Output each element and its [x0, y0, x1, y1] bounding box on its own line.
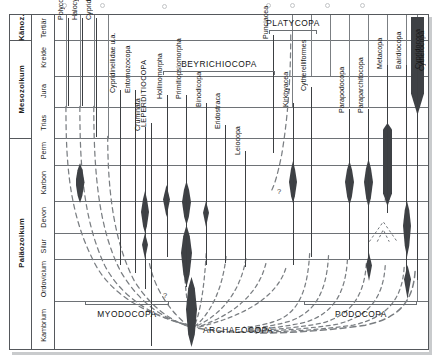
period-label: Jura: [39, 84, 48, 98]
taxon-stem-cypridinellidae: [120, 90, 121, 265]
scan-speckle: [162, 4, 167, 9]
period-cell-perm: Perm: [32, 138, 55, 165]
group-caption-myodocopa: MYODOCOPA: [83, 309, 171, 319]
taxon-label-cypridiniformes: Cypridiniformes: [85, 0, 93, 20]
group-caption-archaeocopa: ARCHAEOCOPA: [203, 325, 297, 335]
group-caption-podocopa: PODOCOPA: [305, 309, 417, 319]
taxon-label-kirkbyacea: Kirkbyacea: [282, 72, 290, 107]
period-cell-tertiaer: Tertiär: [32, 15, 55, 40]
taxon-label-polycopiformes: Polycopiformes: [57, 0, 65, 20]
plot-area: Polycopiformes Halocypriformes Cypridini…: [55, 15, 428, 349]
taxon-label-cypridinellidae: Cypridinellidae u.a.: [109, 33, 117, 93]
era-cell-mesozoikum: Mesozoikum: [10, 40, 32, 137]
period-cell-trias: Trias: [32, 107, 55, 137]
taxon-label-binodicopa: Binodicopa: [195, 72, 203, 107]
taxon-label-leiocopa: Leiocopa: [234, 126, 242, 155]
scan-speckle: [290, 3, 295, 8]
taxon-label-halocypriformes: Halocypriformes: [71, 0, 79, 20]
period-label: Perm: [39, 142, 48, 159]
group-caption-beyrichiocopa: BEYRICHIOCOPA: [159, 59, 279, 69]
taxon-stem-cypridocopa: [417, 65, 418, 280]
taxon-label-eridostraca: Eridostraca: [214, 93, 222, 129]
taxon-stem-eridostraca: [225, 125, 226, 263]
taxon-label-paraparchitocopa: Paraparchitocopa: [357, 57, 365, 113]
period-cell-devon: Devon: [32, 201, 55, 233]
taxon-stem-kirkbyacea: [293, 103, 294, 265]
frame-shadow-right: [429, 17, 432, 353]
frame-shadow-bottom: [12, 352, 432, 355]
taxon-stem-metacopa: [387, 65, 388, 213]
scan-speckle: [325, 3, 330, 8]
period-label: Kambrium: [39, 309, 48, 342]
taxon-stem-punciacea: [273, 35, 274, 153]
era-cell-palaeozoikum: Paläozoikum: [10, 138, 32, 349]
taxon-label-bairdiocopa: Bairdiocopa: [395, 32, 403, 69]
taxon-stem-cruminata: [145, 127, 146, 289]
taxon-stem-cypridiniformes: [96, 18, 97, 137]
taxon-stem-parapodocopa: [349, 109, 350, 259]
period-label: Silur: [39, 239, 48, 253]
group-bracket-platycopa: [269, 30, 317, 34]
period-cell-jura: Jura: [32, 76, 55, 108]
period-label: Devon: [39, 207, 48, 228]
taxon-stem-polycopiformes: [68, 18, 69, 106]
group-bracket-myodocopa: [85, 301, 169, 305]
period-cell-silur: Silur: [32, 233, 55, 258]
period-cell-kambrium: Kambrium: [32, 301, 55, 351]
period-label: Kreide: [39, 47, 48, 68]
taxon-stem-cytherelliformes: [311, 87, 312, 257]
uncertainty-question-mark: ?: [277, 187, 281, 196]
era-cell-kaenoz: Känoz.: [10, 15, 32, 40]
period-label: Ordovicium: [39, 261, 48, 297]
chart-frame: Känoz. Mesozoikum Paläozoikum Tertiär Kr…: [9, 14, 429, 350]
era-label: Mesozoikum: [17, 65, 26, 114]
period-cell-karbon: Karbon: [32, 165, 55, 202]
taxon-stem-paraparchitocopa: [368, 109, 369, 261]
taxon-stem-leiocopa: [245, 151, 246, 267]
taxon-stem-binodicopa: [206, 103, 207, 265]
period-column: Tertiär Kreide Jura Trias Perm Karbon De…: [32, 15, 55, 349]
taxon-stem-halocypriformes: [82, 18, 83, 106]
period-label: Trias: [39, 115, 48, 131]
figure-root: Känoz. Mesozoikum Paläozoikum Tertiär Kr…: [0, 0, 438, 364]
taxon-label-entomozocopa: Entomozocopa: [124, 46, 132, 93]
period-cell-kreide: Kreide: [32, 40, 55, 75]
taxon-stem-hollinomorpha: [167, 95, 168, 257]
scan-speckle: [360, 3, 365, 8]
period-cell-ordovicium: Ordovicium: [32, 259, 55, 301]
uncertainty-question-mark: ?: [163, 291, 167, 300]
group-caption-platycopa: PLATYCOPA: [255, 18, 331, 28]
era-label: Paläozoikum: [17, 218, 26, 268]
period-label: Tertiär: [39, 18, 48, 38]
taxon-stem-primitiopsiomorpha: [186, 95, 187, 287]
taxon-label-metacopa: Metacopa: [376, 38, 384, 69]
scan-speckle: [100, 3, 105, 8]
taxon-label-cytherelliformes: Cytherelliformes: [300, 40, 308, 91]
taxon-label-parapodocopa: Parapodocopa: [338, 67, 346, 113]
taxon-stem-bairdiocopa: [406, 65, 407, 275]
taxon-label-cytherocopa: Cytherocopa: [418, 31, 426, 71]
period-label: Karbon: [39, 171, 48, 194]
taxon-label-cruminata: Cruminata: [134, 98, 142, 131]
era-column: Känoz. Mesozoikum Paläozoikum: [10, 15, 32, 349]
era-label: Känoz.: [17, 14, 26, 41]
group-bracket-beyrichiocopa: [163, 71, 275, 75]
group-bracket-podocopa: [304, 301, 417, 305]
